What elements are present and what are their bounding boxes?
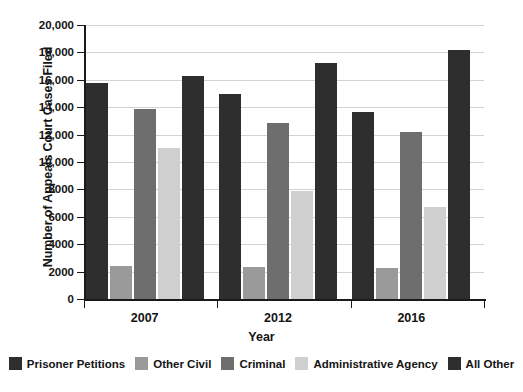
y-axis-tick-label: 16,000 — [12, 74, 74, 86]
y-axis-tick-mark — [77, 107, 85, 108]
y-axis-tick-label: 20,000 — [12, 19, 74, 31]
plot-area — [84, 25, 484, 299]
y-axis-tick-mark — [77, 272, 85, 273]
bar — [158, 148, 180, 299]
legend-label: Administrative Agency — [313, 358, 437, 370]
x-axis-group-label: 2012 — [238, 311, 318, 325]
gridline — [84, 80, 484, 81]
x-axis-tick-mark — [351, 301, 352, 308]
bar — [86, 83, 108, 299]
y-axis-tick-label: 0 — [12, 293, 74, 305]
bar — [219, 94, 241, 300]
legend-swatch-icon — [448, 357, 461, 370]
legend-item[interactable]: Administrative Agency — [295, 357, 437, 370]
legend-item[interactable]: Prisoner Petitions — [9, 357, 125, 370]
chart-legend: Prisoner PetitionsOther CivilCriminalAdm… — [0, 357, 523, 370]
x-axis-group-label: 2007 — [105, 311, 185, 325]
legend-item[interactable]: Other Civil — [135, 357, 211, 370]
bar — [110, 266, 132, 299]
legend-item[interactable]: All Other — [448, 357, 515, 370]
x-axis-line — [84, 299, 486, 301]
bar — [400, 132, 422, 299]
gridline — [84, 52, 484, 53]
legend-label: Other Civil — [153, 358, 211, 370]
y-axis-tick-label: 6000 — [12, 211, 74, 223]
y-axis-tick-label: 4000 — [12, 238, 74, 250]
legend-swatch-icon — [221, 357, 234, 370]
y-axis-tick-mark — [77, 244, 85, 245]
bar-chart-figure: Number of Appeals Court Cases Filed 0200… — [0, 0, 523, 392]
y-axis-tick-mark — [77, 162, 85, 163]
y-axis-tick-mark — [77, 80, 85, 81]
y-axis-tick-label: 2000 — [12, 266, 74, 278]
y-axis-tick-mark — [77, 189, 85, 190]
bar — [267, 123, 289, 299]
bar — [134, 109, 156, 299]
legend-item[interactable]: Criminal — [221, 357, 285, 370]
legend-swatch-icon — [9, 357, 22, 370]
legend-label: Criminal — [239, 358, 285, 370]
y-axis-tick-label: 14,000 — [12, 101, 74, 113]
x-axis-tick-mark — [217, 301, 218, 308]
y-axis-tick-mark — [77, 25, 85, 26]
bar — [243, 267, 265, 299]
y-axis-tick-mark — [77, 299, 85, 300]
legend-label: Prisoner Petitions — [27, 358, 125, 370]
legend-label: All Other — [466, 358, 515, 370]
bar — [182, 76, 204, 299]
bar — [315, 63, 337, 299]
y-axis-tick-mark — [77, 217, 85, 218]
y-axis-tick-label: 12,000 — [12, 129, 74, 141]
y-axis-tick-label: 8000 — [12, 183, 74, 195]
bar — [291, 191, 313, 299]
y-axis-tick-label: 10,000 — [12, 156, 74, 168]
x-axis-tick-mark — [84, 301, 85, 308]
bar — [352, 112, 374, 299]
bar — [376, 268, 398, 300]
y-axis-tick-mark — [77, 135, 85, 136]
bar — [448, 50, 470, 299]
bar — [424, 207, 446, 299]
y-axis-tick-label: 18,000 — [12, 46, 74, 58]
x-axis-tick-mark — [484, 301, 485, 308]
x-axis-group-label: 2016 — [371, 311, 451, 325]
y-axis-tick-mark — [77, 52, 85, 53]
legend-swatch-icon — [135, 357, 148, 370]
gridline — [84, 25, 484, 26]
legend-swatch-icon — [295, 357, 308, 370]
x-axis-title: Year — [0, 330, 523, 344]
